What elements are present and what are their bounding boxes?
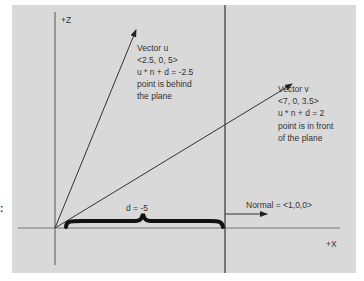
vector-u-components: <2.5, 0, 5> (137, 55, 178, 66)
distance-label: d = -5 (126, 203, 148, 214)
vector-u-equation: u * n + d = -2.5 (137, 67, 193, 78)
vector-v-title: Vector v (278, 84, 309, 95)
side-mark: : (0, 205, 3, 213)
vector-u-result-1: point is behind (137, 79, 192, 90)
vector-u-title: Vector u (137, 43, 168, 54)
normal-label: Normal = <1,0,0> (246, 200, 312, 211)
distance-brace (66, 214, 223, 227)
vector-v-result-1: point is in front (278, 121, 333, 132)
vector-v-result-2: of the plane (278, 133, 322, 144)
vector-u-result-2: the plane (137, 91, 172, 102)
vector-v-equation: u * n + d = 2 (278, 108, 324, 119)
vector-v-components: <7, 0, 3.5> (278, 96, 319, 107)
x-axis-label: +X (326, 239, 337, 250)
vector-u-arrow (55, 30, 136, 228)
z-axis-label: +Z (61, 15, 71, 26)
